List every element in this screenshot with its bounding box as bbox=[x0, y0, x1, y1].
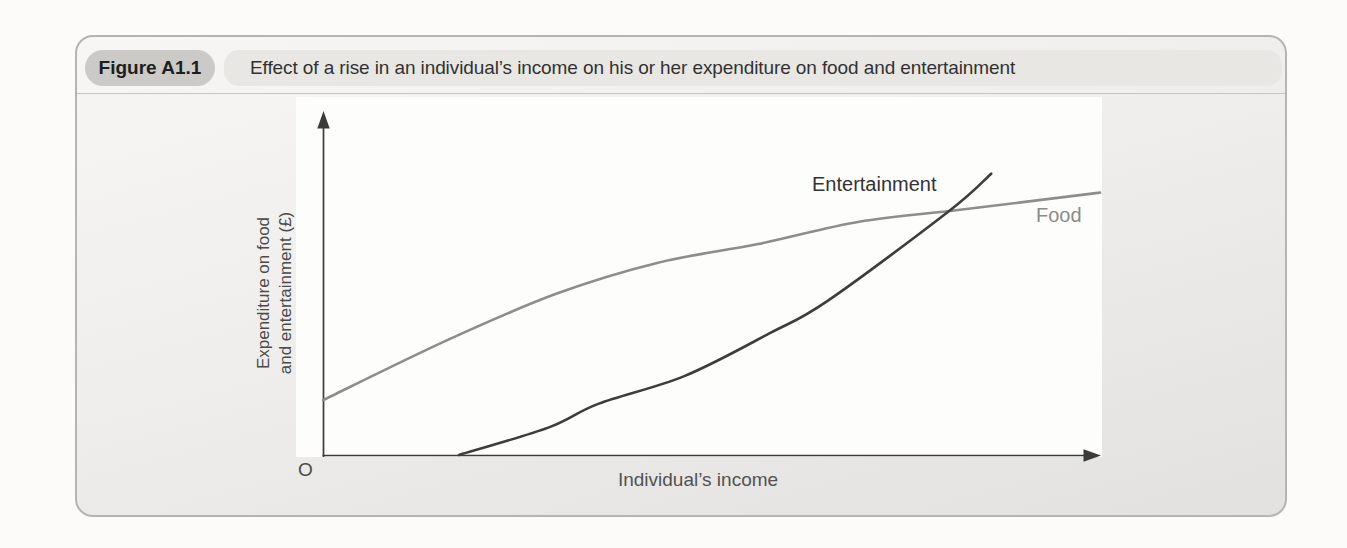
scanned-textbook-page: Figure A1.1 Effect of a rise in an indiv… bbox=[0, 0, 1347, 548]
y-axis-arrowhead bbox=[317, 111, 329, 129]
x-axis-arrowhead bbox=[1084, 449, 1102, 461]
food-curve bbox=[323, 193, 1100, 401]
chart-canvas bbox=[0, 0, 1347, 548]
